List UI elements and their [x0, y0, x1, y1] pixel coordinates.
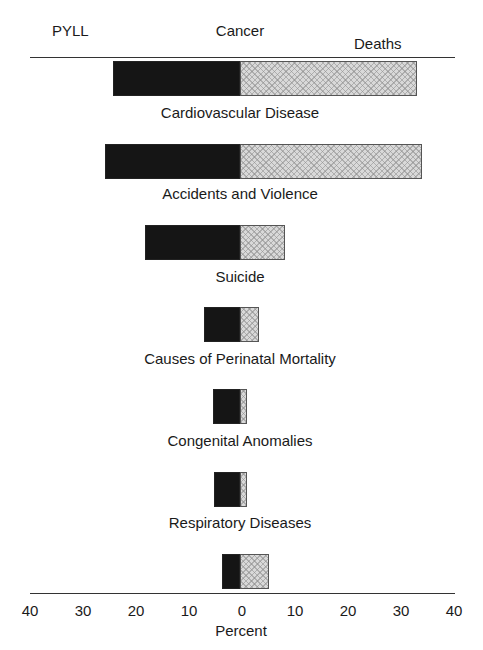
category-label: Causes of Perinatal Mortality — [40, 350, 440, 367]
category-label: Cardiovascular Disease — [40, 104, 440, 121]
pyll-bar — [145, 225, 240, 260]
x-tick-label: 20 — [328, 602, 368, 619]
deaths-bar — [240, 307, 259, 342]
pyll-bar — [105, 144, 240, 179]
category-label: Cancer — [40, 22, 440, 39]
x-tick-label: 40 — [10, 602, 50, 619]
deaths-bar — [240, 61, 417, 96]
pyll-bar — [214, 472, 240, 507]
x-tick-label: 20 — [116, 602, 156, 619]
top-axis-line — [30, 57, 455, 58]
pyll-bar — [213, 389, 240, 424]
pyll-bar — [113, 61, 240, 96]
x-axis-label: Percent — [191, 622, 291, 639]
x-tick-label: 10 — [275, 602, 315, 619]
category-label: Congenital Anomalies — [40, 432, 440, 449]
x-tick-label: 0 — [222, 602, 262, 619]
x-tick-label: 40 — [434, 602, 474, 619]
deaths-bar — [240, 554, 269, 589]
category-label: Suicide — [40, 268, 440, 285]
x-tick-label: 30 — [63, 602, 103, 619]
pyll-bar — [204, 307, 240, 342]
deaths-bar — [240, 144, 422, 179]
deaths-bar — [240, 389, 247, 424]
deaths-bar — [240, 472, 247, 507]
category-label: Accidents and Violence — [40, 185, 440, 202]
x-tick-label: 10 — [169, 602, 209, 619]
bottom-axis-line — [30, 593, 455, 594]
pyll-bar — [222, 554, 240, 589]
deaths-bar — [240, 225, 285, 260]
x-tick-label: 30 — [381, 602, 421, 619]
category-label: Respiratory Diseases — [40, 514, 440, 531]
